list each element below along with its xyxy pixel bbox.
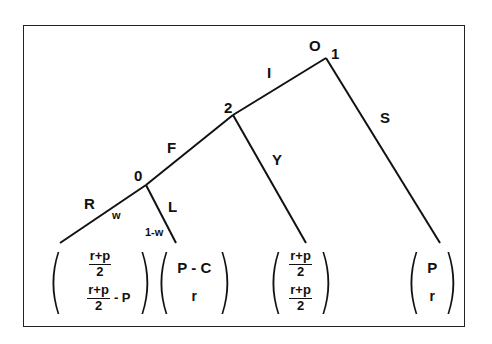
edge-F <box>146 115 233 185</box>
edge-label-R: R <box>84 196 95 211</box>
right-paren: ) <box>217 246 232 316</box>
edge-label-I: I <box>267 65 271 80</box>
payoff-vector-S: ( P r ) <box>400 246 465 316</box>
payoff-vector-L: ( P - C r ) <box>150 246 239 316</box>
fraction: r+p 2 <box>89 249 112 279</box>
edge-label-L: L <box>168 199 177 214</box>
left-paren: ( <box>156 246 171 316</box>
edge-label-S: S <box>380 110 390 125</box>
payoff-vector-R: ( r+p 2 r+p 2 - P ) <box>42 246 158 316</box>
left-paren: ( <box>268 246 283 316</box>
right-paren: ) <box>443 246 458 316</box>
edge-label-F: F <box>167 140 176 155</box>
game-tree-diagram: O 1 2 0 I S F Y R L w 1-w ( r+p 2 r+p 2 … <box>0 0 492 344</box>
fraction: r+p 2 <box>289 249 312 279</box>
edge-I <box>233 58 326 115</box>
edge-S <box>326 58 440 243</box>
edge-label-Y: Y <box>272 152 282 167</box>
edge-R <box>60 185 146 243</box>
right-paren: ) <box>318 246 333 316</box>
fraction: r+p 2 <box>289 283 312 313</box>
payoff-vector-Y: ( r+p 2 r+p 2 ) <box>262 246 339 316</box>
left-paren: ( <box>48 246 63 316</box>
probability-w: w <box>112 210 121 221</box>
second-player-label: 2 <box>224 100 232 115</box>
root-outside-label: O <box>309 38 321 53</box>
left-paren: ( <box>406 246 421 316</box>
fraction: r+p 2 <box>87 283 110 313</box>
edge-Y <box>233 115 306 243</box>
probability-1-w: 1-w <box>145 227 163 238</box>
root-player-label: 1 <box>331 46 339 61</box>
chance-node-label: 0 <box>134 168 142 183</box>
